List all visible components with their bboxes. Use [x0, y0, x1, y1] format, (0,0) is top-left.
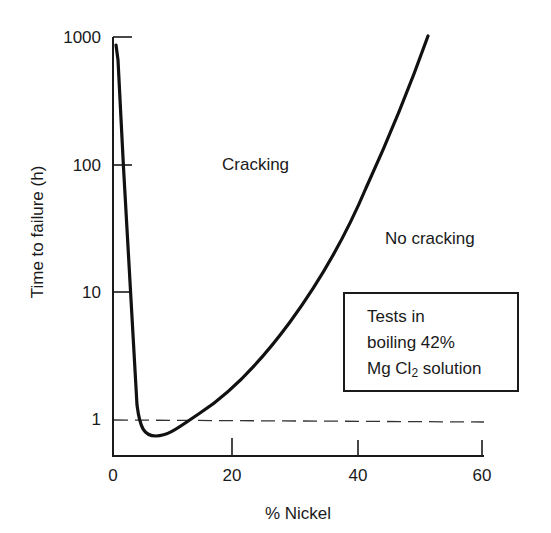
y-tick-label-10: 10	[82, 283, 101, 302]
y-tick-label-1: 1	[92, 410, 101, 429]
y-tick-label-1000: 1000	[63, 28, 101, 47]
test-conditions-note: Tests in boiling 42% Mg Cl2 solution	[343, 292, 519, 392]
x-tick-label-0: 0	[108, 466, 117, 485]
note-line-2: boiling 42%	[367, 330, 481, 356]
y-axis-title: Time to failure (h)	[28, 166, 47, 299]
test-conditions-text: Tests in boiling 42% Mg Cl2 solution	[367, 304, 481, 382]
x-tick-label-20: 20	[223, 466, 242, 485]
note-line-3-post: solution	[418, 359, 481, 378]
region-label-cracking: Cracking	[222, 155, 289, 174]
x-tick-label-60: 60	[473, 466, 492, 485]
chart-canvas: 1000 100 10 1 0 20 40 60 % Nickel Time t…	[0, 0, 551, 533]
reference-line-1h	[114, 420, 484, 422]
region-label-no-cracking: No cracking	[385, 229, 475, 248]
note-line-3-pre: Mg Cl	[367, 359, 411, 378]
x-axis-title: % Nickel	[265, 504, 331, 523]
x-tick-label-40: 40	[349, 466, 368, 485]
y-tick-label-100: 100	[73, 156, 101, 175]
note-line-3: Mg Cl2 solution	[367, 356, 481, 382]
note-line-1: Tests in	[367, 304, 481, 330]
